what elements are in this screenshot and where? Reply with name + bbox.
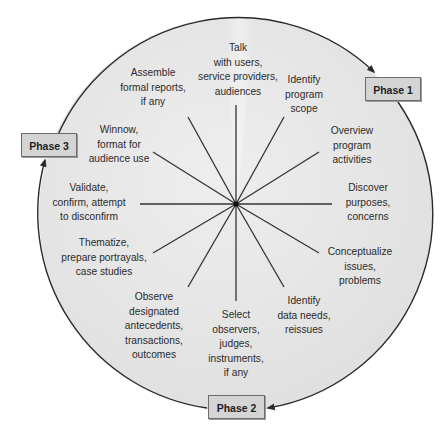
step-identify-program-scope: Identify program scope — [285, 73, 323, 117]
step-assemble-reports: Assemble formal reports, if any — [120, 66, 186, 110]
step-identify-data-needs: Identify data needs, reissues — [277, 294, 330, 338]
step-winnow-format: Winnow, format for audience use — [89, 123, 150, 167]
step-select-observers: Select observers, judges, instruments, i… — [208, 308, 263, 381]
step-overview-program-activities: Overview program activities — [331, 124, 373, 168]
step-conceptualize-issues: Conceptualize issues, problems — [328, 245, 393, 289]
step-validate-confirm: Validate, confirm, attempt to disconfirm — [52, 181, 125, 225]
step-observe-antecedents: Observe designated antecedents, transact… — [125, 290, 183, 363]
step-thematize: Thematize, prepare portrayals, case stud… — [61, 236, 147, 280]
evaluation-clock-diagram: Talk with users, service providers, audi… — [0, 0, 448, 427]
hub — [233, 201, 238, 206]
phase-3-box: Phase 3 — [21, 133, 77, 157]
step-talk-with-users: Talk with users, service providers, audi… — [198, 41, 278, 99]
phase-1-box: Phase 1 — [365, 77, 421, 101]
step-discover-purposes: Discover purposes, concerns — [346, 181, 391, 225]
phase-2-box: Phase 2 — [208, 395, 265, 419]
